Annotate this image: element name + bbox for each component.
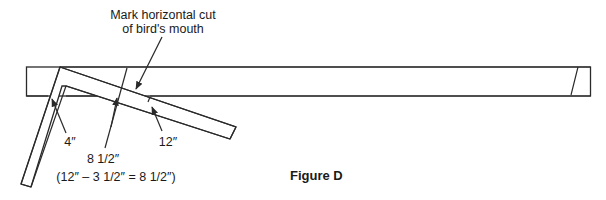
mark-label-line2: of bird's mouth xyxy=(122,22,204,36)
cut-8half-arrow xyxy=(111,98,117,127)
cut-measure-label: 8 1/2″ xyxy=(87,152,120,166)
figure-caption: Figure D xyxy=(290,168,343,183)
bird-mouth-diagram: Mark horizontal cut of bird's mouth 4″ 1… xyxy=(0,0,606,200)
mark-label-line1: Mark horizontal cut xyxy=(110,8,216,22)
blade-measure-label: 12″ xyxy=(159,135,178,149)
tongue-measure-label: 4″ xyxy=(64,135,76,149)
cut-formula-label: (12″ – 3 1/2″ = 8 1/2″) xyxy=(56,170,175,184)
tongue-4-arrow xyxy=(52,99,66,133)
